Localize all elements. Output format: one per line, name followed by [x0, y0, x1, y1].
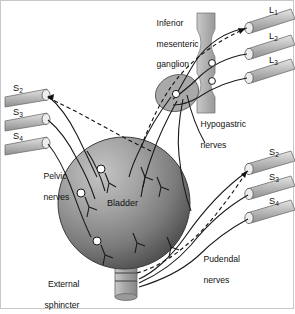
external-sphincter-label: External sphincter — [35, 269, 79, 314]
pelvic-nerves-label: Pelvic nerves — [34, 161, 69, 212]
left-sacral-root-cylinders — [5, 89, 50, 155]
root-label-L3: L3 — [269, 55, 278, 65]
hypogastric-nerves-label: Hypogastric nerves — [191, 109, 246, 160]
root-label-right-S2: S2 — [269, 147, 279, 157]
lumbar-root-cylinders — [245, 9, 295, 84]
root-cylinder-left-S2 — [5, 89, 50, 107]
root-cylinder-left-S4 — [5, 137, 50, 155]
root-cylinder-left-S3 — [5, 113, 50, 131]
root-label-L1: L1 — [269, 5, 278, 15]
arrowhead-pudendal — [241, 171, 247, 178]
pudendal-nerves-label: Pudendal nerves — [194, 244, 240, 295]
right-sacral-root-cylinders — [245, 151, 295, 224]
root-label-left-S4: S4 — [13, 131, 23, 141]
root-label-L2: L2 — [269, 31, 278, 41]
bladder-label: Bladder — [107, 198, 138, 208]
root-label-right-S3: S3 — [269, 172, 279, 182]
root-label-right-S4: S4 — [269, 196, 279, 206]
root-label-left-S2: S2 — [13, 83, 23, 93]
inferior-mesenteric-ganglion-label: Inferior mesenteric ganglion — [147, 8, 199, 79]
arrowhead-lumbar — [238, 28, 245, 34]
root-label-left-S3: S3 — [13, 107, 23, 117]
